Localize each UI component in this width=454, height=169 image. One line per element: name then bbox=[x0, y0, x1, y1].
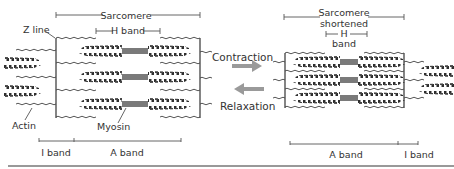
short-h-band-label-line2: band bbox=[332, 38, 356, 49]
relaxed-sarcomere: Sarcomere H band Z line bbox=[4, 10, 212, 158]
band-brackets bbox=[39, 138, 181, 142]
short-band-brackets bbox=[290, 141, 418, 145]
short-i-band-label: I band bbox=[404, 149, 434, 160]
z-line-label: Z line bbox=[23, 24, 50, 35]
sarcomere-diagram: Sarcomere H band Z line bbox=[0, 0, 454, 169]
h-band-label: H band bbox=[111, 25, 145, 36]
short-myosin-filaments bbox=[288, 56, 454, 104]
actin-pointer bbox=[25, 108, 32, 120]
actin-label: Actin bbox=[12, 120, 36, 131]
sarcomere-shortened-label-line1: Sarcomere bbox=[318, 7, 369, 18]
a-band-label: A band bbox=[110, 147, 143, 158]
short-a-band-label: A band bbox=[329, 149, 362, 160]
myosin-label: Myosin bbox=[97, 121, 130, 132]
i-band-label: I band bbox=[41, 147, 71, 158]
relaxation-arrow-icon bbox=[234, 83, 264, 95]
relaxation-label: Relaxation bbox=[220, 100, 275, 112]
transition-arrows: Contraction Relaxation bbox=[212, 51, 275, 112]
myosin-filaments bbox=[4, 45, 196, 110]
contracted-sarcomere: Sarcomere shortened H band bbox=[273, 7, 454, 160]
sarcomere-label: Sarcomere bbox=[100, 10, 151, 21]
contraction-label: Contraction bbox=[212, 51, 273, 63]
